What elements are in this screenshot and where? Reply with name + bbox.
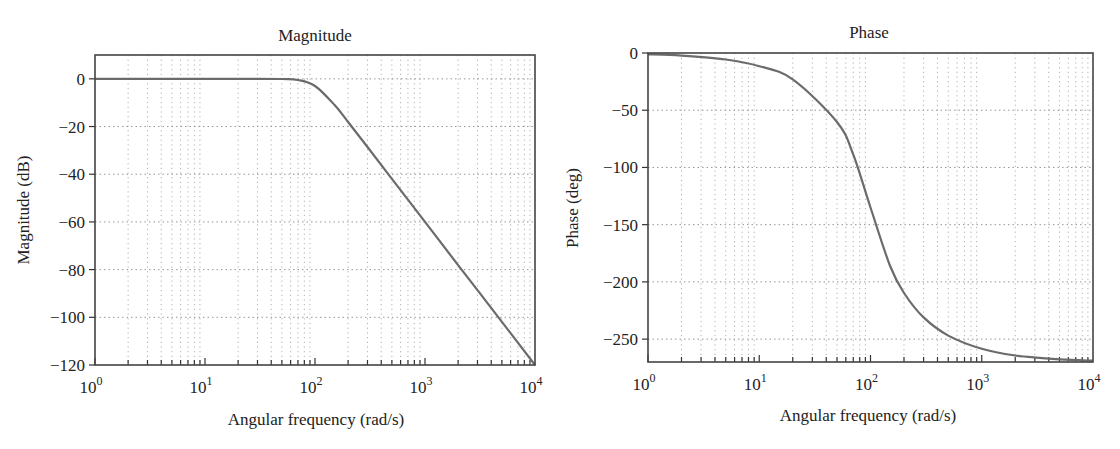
y-tick-label: −20	[58, 118, 85, 137]
x-tick-label: 100	[80, 374, 103, 397]
phase-ylabel: Phase (deg)	[563, 168, 582, 248]
phase-xlabel: Angular frequency (rad/s)	[780, 406, 957, 425]
phase-axis-ticks: 0−50−100−150−200−250100101102103104	[603, 44, 1101, 394]
x-tick-label: 102	[300, 374, 323, 397]
x-tick-label: 104	[1078, 371, 1101, 394]
magnitude-axis-ticks: 0−20−40−60−80−100−120100101102103104	[50, 70, 543, 397]
y-tick-label: −150	[603, 216, 638, 235]
x-tick-label: 102	[855, 371, 878, 394]
y-tick-label: −40	[58, 165, 85, 184]
x-tick-label: 103	[410, 374, 433, 397]
phase-title: Phase	[849, 23, 889, 42]
x-tick-label: 104	[520, 374, 543, 397]
y-tick-label: −100	[50, 308, 85, 327]
y-tick-label: −120	[50, 356, 85, 375]
y-tick-label: 0	[77, 70, 86, 89]
magnitude-grid	[95, 55, 535, 365]
y-tick-label: −250	[603, 330, 638, 349]
x-tick-label: 100	[633, 371, 656, 394]
magnitude-xlabel: Angular frequency (rad/s)	[228, 410, 405, 429]
x-tick-label: 103	[966, 371, 989, 394]
bode-figure: Magnitude 0−20−40−60−80−100−120100101102…	[0, 0, 1120, 449]
y-tick-label: −60	[58, 213, 85, 232]
y-tick-label: −50	[611, 101, 638, 120]
phase-plot: Phase 0−50−100−150−200−25010010110210310…	[563, 23, 1101, 425]
x-tick-label: 101	[744, 371, 767, 394]
y-tick-label: 0	[630, 44, 639, 63]
y-tick-label: −80	[58, 261, 85, 280]
y-tick-label: −100	[603, 158, 638, 177]
x-tick-label: 101	[190, 374, 213, 397]
magnitude-plot: Magnitude 0−20−40−60−80−100−120100101102…	[14, 26, 543, 429]
y-tick-label: −200	[603, 273, 638, 292]
magnitude-title: Magnitude	[278, 26, 352, 45]
magnitude-ylabel: Magnitude (dB)	[14, 155, 33, 264]
